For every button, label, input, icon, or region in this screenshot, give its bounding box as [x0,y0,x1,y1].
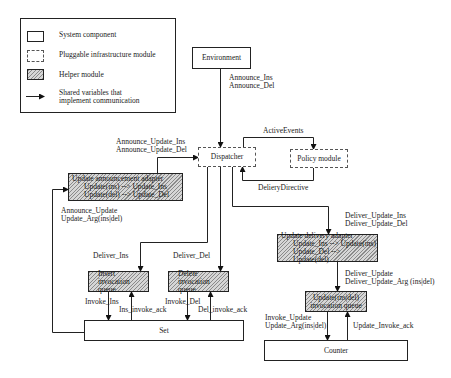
update-queue-line2: invocation queue [310,302,361,310]
legend-pluggable-module-icon [27,50,44,62]
insert-queue-line2: invocation queue [92,278,148,294]
label-del-invoke-ack: Del_invoke_ack [198,306,247,314]
label-update-invoke-ack: Update_Invoke_ack [353,322,413,330]
label-deliver-del: Deliver_Del [173,252,210,260]
label-ins-invoke-ack: Ins_invoke_ack [119,306,167,314]
dispatcher-node: Dispatcher [198,147,256,167]
label-invoke-update-arg: Update_Arg(ins|del) [265,322,326,330]
policy-module-label: Policy module [297,155,341,163]
legend-shared-variables-label-line2: implement communication [59,97,140,105]
set-node: Set [84,320,244,341]
label-deliver-update-arg: Deliver_Update_Arg (ins|del) [345,278,434,286]
environment-node: Environment [192,47,251,69]
environment-label: Environment [202,54,241,62]
edge-deliver-update [233,167,329,234]
edge-delivery-directive [243,167,314,181]
label-deliver-ins: Deliver_Ins [93,252,128,260]
legend-system-component-icon [27,31,44,42]
label-delivery-directive: DelieryDirective [258,184,308,192]
legend-system-component-label: System component [59,31,116,39]
delete-queue-line2: invocation queue [172,278,228,294]
architecture-diagram: System component Pluggable infrastructur… [0,0,451,378]
announce-adapter-rule-del: Update(del) --> Update_Del [72,191,169,199]
legend-helper-module-icon [27,69,44,80]
dispatcher-label: Dispatcher [211,153,244,161]
label-active-events: ActiveEvents [263,127,303,135]
update-delivery-adapter-node: Update delivery adapter Update_Ins --> U… [277,234,378,262]
label-announce-update-del: Announce_Update_Del [116,146,187,154]
edge-announce-update [158,158,199,174]
counter-node: Counter [264,340,408,361]
delete-invocation-queue-node: Delete invocation queue [168,271,229,292]
insert-invocation-queue-node: Insert invocation queue [88,271,149,292]
label-invoke-del: Invoke_Del [165,298,200,306]
label-invoke-ins: Invoke_Ins [85,298,119,306]
legend-helper-module-label: Helper module [59,71,104,79]
delivery-adapter-rule-del: Update_Del --> Update(del) [281,248,377,264]
legend-pluggable-module-label: Pluggable infrastructure module [59,51,156,59]
counter-label: Counter [324,347,348,355]
label-announce-del: Announce_Del [229,82,274,90]
update-invocation-queue-node: Update(ins|del) invocation queue [305,291,367,312]
update-announcement-adapter-node: Update announcement adapter Update(ins) … [68,173,183,201]
set-label: Set [159,327,169,335]
label-deliver-update-del: Deliver_Update_Del [345,220,407,228]
policy-module-node: Policy module [290,149,348,168]
label-update-arg: Update_Arg(ins|del) [61,215,122,223]
